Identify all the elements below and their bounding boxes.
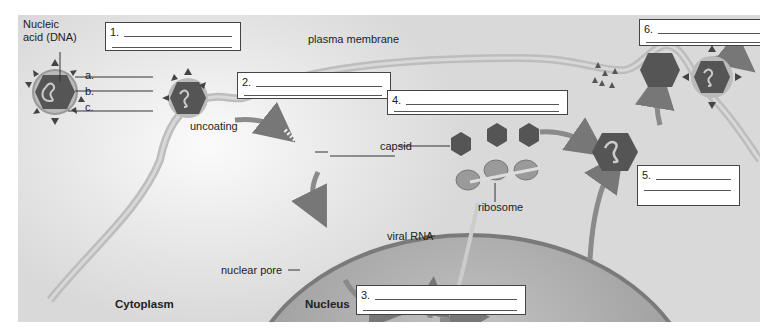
label-part-b: b. [85, 85, 94, 98]
virion-assembled [592, 133, 638, 171]
label-uncoating: uncoating [190, 120, 238, 133]
label-ribosome: ribosome [478, 201, 523, 214]
answer-box-4[interactable]: 4. [387, 90, 568, 115]
answer-box-6[interactable]: 6. [639, 19, 760, 46]
label-capsid: capsid [380, 140, 412, 153]
label-nucleic-acid: Nucleic acid (DNA) [23, 18, 77, 44]
virion-entering [162, 68, 208, 118]
label-viral-rna: viral RNA [387, 230, 433, 243]
label-nuclear-pore: nuclear pore [221, 264, 282, 277]
diagram-panel: Nucleic acid (DNA) a. b. c. plasma membr… [18, 15, 760, 322]
answer-box-3[interactable]: 3. [356, 285, 526, 315]
label-part-a: a. [85, 69, 94, 82]
capsids [451, 123, 539, 156]
ribosomes [456, 160, 538, 190]
label-nucleus: Nucleus [305, 298, 350, 311]
uncoated-dna [285, 130, 312, 160]
answer-box-5[interactable]: 5. [637, 165, 740, 206]
answer-box-1[interactable]: 1. [105, 22, 241, 51]
virion-budding [640, 53, 680, 87]
answer-box-2[interactable]: 2. [237, 72, 391, 99]
label-cytoplasm: Cytoplasm [115, 298, 174, 311]
label-plasma-membrane: plasma membrane [308, 33, 399, 46]
label-part-c: c. [85, 101, 94, 114]
virion-free [25, 59, 85, 125]
